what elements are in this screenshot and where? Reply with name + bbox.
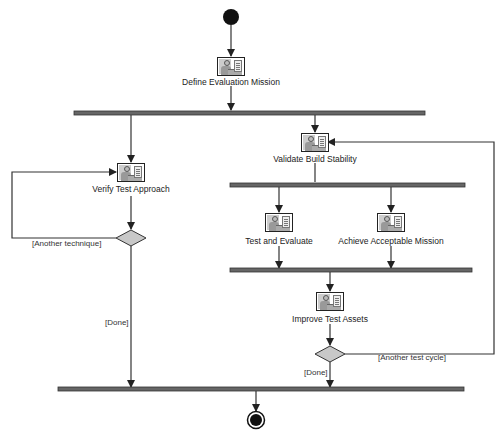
guard-another-technique: [Another technique] [32,239,101,249]
improve-activity-label: Improve Test Assets [292,314,368,324]
define-activity-label: Define Evaluation Mission [182,77,280,87]
join-bar-4 [58,387,464,391]
fork-bar-2 [230,183,465,187]
define-activity-icon[interactable] [217,57,245,76]
achieve-activity-label: Achieve Acceptable Mission [338,236,443,246]
decision-node-left [116,230,146,246]
achieve-activity-icon[interactable] [377,213,405,232]
fork-bar-1 [74,111,425,115]
verify-activity-label: Verify Test Approach [92,184,169,194]
guard-another-test-cycle: [Another test cycle] [378,353,446,363]
final-node-dot [250,414,262,426]
improve-activity-icon[interactable] [316,292,344,311]
initial-node [223,9,239,25]
test-activity-label: Test and Evaluate [245,236,313,246]
test-activity-icon[interactable] [265,213,293,232]
guard-done-right: [Done] [304,368,328,378]
join-bar-3 [230,268,472,272]
verify-activity-icon[interactable] [117,163,145,182]
activity-diagram-canvas [0,0,504,443]
validate-activity-label: Validate Build Stability [273,154,356,164]
validate-activity-icon[interactable] [301,133,329,152]
guard-done-left: [Done] [105,318,129,328]
flow-another-technique-loop [12,172,116,238]
decision-node-right [315,346,345,362]
